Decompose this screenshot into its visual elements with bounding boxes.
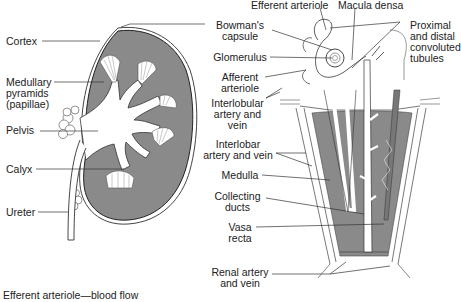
label-vasa-recta: Vasa recta — [220, 222, 260, 244]
label-line: tubules — [410, 53, 461, 64]
figure-caption: Efferent arteriole—blood flow — [3, 289, 138, 301]
label-afferent-arteriole: Afferent arteriole — [210, 72, 270, 94]
label-efferent-arteriole: Efferent arteriole — [251, 0, 328, 11]
label-cortex: Cortex — [6, 36, 37, 47]
label-ureter: Ureter — [6, 207, 35, 218]
label-bowmans-capsule: Bowman's capsule — [210, 20, 270, 42]
kidney — [59, 27, 197, 240]
label-pelvis: Pelvis — [6, 125, 34, 136]
label-line: ducts — [210, 202, 265, 213]
label-line: vein — [205, 120, 270, 131]
label-line: (papillae) — [6, 99, 52, 110]
label-glomerulus: Glomerulus — [210, 52, 270, 63]
label-renal-artery-vein: Renal artery and vein — [208, 267, 272, 289]
label-medullary-pyramids: Medullary pyramids (papillae) — [6, 77, 52, 110]
label-calyx: Calyx — [6, 164, 32, 175]
label-line: artery and vein — [200, 150, 276, 161]
label-line: recta — [220, 233, 260, 244]
label-convoluted-tubules: Proximal and distal convoluted tubules — [410, 20, 461, 64]
label-interlobar-artery-vein: Interlobar artery and vein — [200, 139, 276, 161]
label-collecting-ducts: Collecting ducts — [210, 191, 265, 213]
label-interlobular-artery-vein: Interlobular artery and vein — [205, 98, 270, 131]
label-line: capsule — [210, 31, 270, 42]
label-macula-densa: Macula densa — [338, 0, 403, 11]
label-line: arteriole — [210, 83, 270, 94]
label-medulla: Medulla — [215, 170, 265, 181]
label-line: and vein — [208, 278, 272, 289]
